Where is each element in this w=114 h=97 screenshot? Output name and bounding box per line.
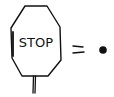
filled-dot-icon (99, 46, 107, 54)
sketch-canvas: STOP (0, 0, 114, 97)
sign-label: STOP (16, 35, 56, 51)
equals-icon (73, 46, 84, 53)
sign-post (33, 76, 36, 93)
